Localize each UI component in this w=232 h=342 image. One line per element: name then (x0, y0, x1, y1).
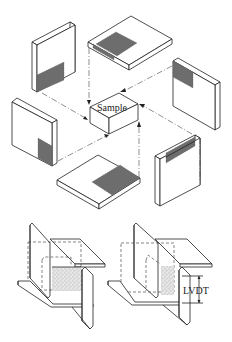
sample-label: Sample (97, 102, 128, 113)
specimen-top-left-vertical (32, 22, 75, 92)
specimen-bottom-horizontal-plate (57, 155, 140, 209)
arrow-right-down-icon (83, 116, 88, 120)
test-setup-before (18, 223, 105, 329)
test-setup-displaced: LVDT (108, 223, 212, 325)
adhesive-layer (52, 267, 81, 291)
specimen-top-horizontal-plate (88, 16, 172, 70)
sample-block: Sample (90, 93, 138, 134)
arrow-left-down-icon (120, 88, 126, 92)
specimen-bottom-right-vertical (155, 135, 200, 206)
specimen-left-vertical (12, 98, 57, 166)
arrow-right-up-icon (104, 134, 109, 138)
adhesive-layer (161, 266, 174, 295)
lvdt-label: LVDT (183, 285, 209, 296)
arrow-down-icon (87, 100, 91, 105)
specimen-right-vertical (173, 58, 220, 130)
arrow-up-icon (137, 121, 141, 127)
bonding-test-diagram: Sample (0, 0, 232, 342)
